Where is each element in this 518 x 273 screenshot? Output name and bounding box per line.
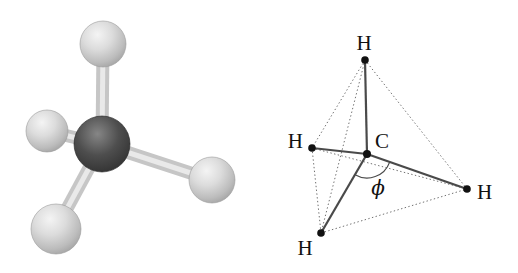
- angle-phi-label: ϕ: [371, 176, 385, 200]
- vertex-dot-bottom: [317, 229, 325, 237]
- carbon-atom: [74, 116, 130, 172]
- vertex-label-center: C: [375, 129, 389, 153]
- tetrahedron-diagram: H H C H H ϕ: [288, 31, 492, 260]
- hydrogen-atom-top: [80, 21, 126, 67]
- hydrogen-atom-bottom: [31, 204, 81, 254]
- figure-svg: H H C H H ϕ: [0, 0, 518, 273]
- edge-top-right-icon: [365, 60, 467, 189]
- vertex-dot-left: [308, 144, 316, 152]
- vertex-dot-right: [463, 185, 471, 193]
- hydrogen-atom-left: [26, 110, 68, 152]
- bond-line-left: [312, 148, 367, 154]
- edge-top-left-icon: [312, 60, 365, 148]
- vertex-label-right: H: [477, 180, 492, 204]
- vertex-label-left: H: [288, 129, 303, 153]
- bond-line-bottom: [321, 154, 367, 233]
- edge-left-bottom-icon: [312, 148, 321, 233]
- edge-left-right-icon: [312, 148, 467, 189]
- vertex-dots: [308, 56, 471, 237]
- methane-figure: H H C H H ϕ: [0, 0, 518, 273]
- tetrahedron-bonds: [312, 60, 467, 233]
- hydrogen-atom-right: [189, 157, 235, 203]
- vertex-dot-top: [361, 56, 369, 64]
- edge-top-bottom-icon: [321, 60, 365, 233]
- vertex-label-top: H: [356, 31, 371, 55]
- vertex-dot-center: [363, 150, 371, 158]
- vertex-label-bottom: H: [297, 236, 312, 260]
- bond-line-top: [365, 60, 367, 154]
- ball-and-stick-model: [26, 21, 235, 254]
